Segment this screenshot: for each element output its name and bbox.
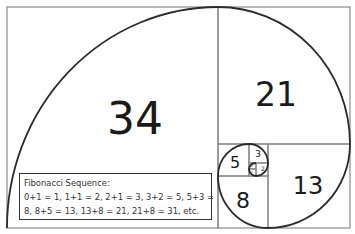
square-label-13: 13: [293, 174, 324, 198]
square-label-1: 1: [251, 165, 253, 168]
square-label-5: 5: [230, 155, 240, 171]
square-label-34: 34: [107, 97, 163, 141]
square-label-8: 8: [236, 190, 250, 212]
square-label-2: 2: [261, 166, 265, 172]
square-label-1: 1: [251, 171, 253, 174]
info-line-2: 8, 8+5 = 13, 13+8 = 21, 21+8 = 31, etc.: [24, 204, 207, 218]
info-line-1: 0+1 = 1, 1+1 = 2, 2+1 = 3, 3+2 = 5, 5+3 …: [24, 190, 207, 204]
square-label-3: 3: [255, 150, 261, 159]
fibonacci-info-box: Fibonacci Sequence: 0+1 = 1, 1+1 = 2, 2+…: [19, 173, 212, 220]
info-heading: Fibonacci Sequence:: [24, 176, 207, 190]
square-label-21: 21: [255, 78, 297, 111]
